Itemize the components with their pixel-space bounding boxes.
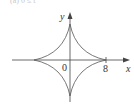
- x-tick-label: 8: [103, 64, 108, 74]
- astroid-plot: [0, 0, 134, 109]
- x-axis-arrow-icon: [123, 58, 130, 63]
- y-axis-arrow-icon: [68, 12, 73, 19]
- y-axis-label: y: [60, 12, 64, 22]
- x-axis-label: x: [126, 64, 130, 74]
- origin-label: 0: [62, 63, 67, 73]
